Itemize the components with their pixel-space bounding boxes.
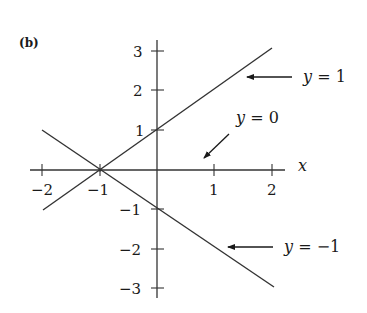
level-curves-plot: (b) −2 −1 1 2 3 2 1 −1 −2: [0, 0, 367, 313]
y-tick-label-neg3: −3: [119, 280, 141, 298]
x-tick-label-2: 2: [267, 181, 277, 199]
label-y-eq-1: y = 1: [302, 67, 346, 86]
x-tick-label-neg1: −1: [87, 181, 109, 199]
panel-label: (b): [19, 36, 39, 50]
line-y-eq-neg1: [42, 130, 274, 287]
y-tick-label-2: 2: [133, 82, 143, 100]
y-tick-label-neg2: −2: [119, 241, 141, 259]
y-tick-label-neg1: −1: [119, 201, 141, 219]
figure-panel-b: (b) −2 −1 1 2 3 2 1 −1 −2: [0, 0, 367, 313]
arrow-y-eq-0: [204, 134, 229, 158]
x-tick-label-neg2: −2: [31, 181, 53, 199]
label-y-eq-neg1: y = −1: [283, 237, 340, 256]
label-y-eq-0: y = 0: [235, 108, 279, 127]
x-axis-label: x: [298, 156, 307, 175]
intersection-point: [98, 168, 101, 171]
y-tick-label-1: 1: [135, 122, 145, 140]
x-tick-label-1: 1: [209, 181, 219, 199]
y-tick-label-3: 3: [133, 43, 143, 61]
